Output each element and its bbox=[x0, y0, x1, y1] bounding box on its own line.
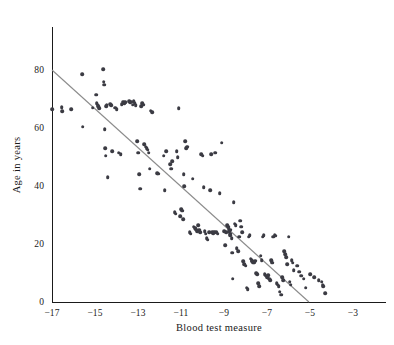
data-point bbox=[262, 234, 266, 238]
data-point bbox=[229, 228, 233, 232]
data-point bbox=[248, 234, 252, 238]
data-point bbox=[308, 273, 312, 277]
data-point bbox=[191, 177, 195, 181]
data-point bbox=[196, 223, 200, 227]
data-point bbox=[101, 68, 105, 72]
data-point bbox=[123, 101, 127, 105]
data-point bbox=[240, 231, 244, 235]
data-point bbox=[81, 125, 85, 129]
data-point bbox=[223, 244, 227, 248]
data-point bbox=[50, 107, 54, 111]
data-point bbox=[289, 283, 293, 287]
data-point bbox=[302, 277, 306, 281]
data-point bbox=[119, 152, 123, 156]
data-point bbox=[61, 109, 65, 113]
data-point bbox=[171, 160, 175, 164]
data-point bbox=[104, 147, 108, 151]
data-point bbox=[297, 270, 301, 274]
data-point bbox=[150, 110, 154, 114]
data-point bbox=[91, 106, 95, 110]
data-point bbox=[148, 167, 152, 171]
data-point bbox=[136, 151, 140, 155]
data-point bbox=[238, 219, 242, 223]
data-point bbox=[231, 277, 235, 281]
data-point bbox=[253, 259, 257, 263]
data-point bbox=[137, 173, 141, 177]
scatter-plot-figure: −17−15−13−11−9−7−5−3020406080 Blood test… bbox=[0, 0, 394, 345]
data-point bbox=[236, 249, 240, 253]
data-point bbox=[102, 83, 106, 87]
data-point bbox=[162, 154, 166, 158]
data-point bbox=[184, 139, 188, 143]
data-point bbox=[279, 293, 283, 297]
data-point bbox=[246, 287, 250, 291]
data-point bbox=[185, 145, 189, 149]
data-point bbox=[138, 187, 142, 191]
data-point bbox=[103, 128, 107, 132]
data-point bbox=[209, 152, 213, 156]
data-point bbox=[175, 149, 179, 153]
data-point bbox=[258, 284, 262, 288]
data-point bbox=[170, 167, 174, 171]
data-point bbox=[271, 261, 275, 265]
data-point bbox=[274, 234, 278, 238]
data-point bbox=[202, 186, 206, 190]
data-point bbox=[201, 154, 205, 158]
data-point bbox=[182, 184, 186, 188]
data-point bbox=[109, 104, 113, 108]
data-points-layer bbox=[0, 0, 394, 345]
data-point bbox=[322, 284, 326, 288]
data-point bbox=[176, 155, 180, 159]
data-point bbox=[281, 278, 285, 282]
data-point bbox=[295, 264, 299, 268]
data-point bbox=[259, 254, 263, 258]
data-point bbox=[291, 261, 295, 265]
data-point bbox=[214, 151, 218, 155]
data-point bbox=[181, 218, 185, 222]
data-point bbox=[157, 172, 161, 176]
data-point bbox=[147, 151, 151, 155]
data-point bbox=[286, 263, 290, 267]
data-point bbox=[174, 212, 178, 216]
data-point bbox=[234, 223, 238, 227]
data-point bbox=[237, 235, 241, 239]
data-point bbox=[285, 255, 289, 259]
data-point bbox=[239, 225, 243, 229]
data-point bbox=[206, 238, 210, 242]
data-point bbox=[230, 251, 234, 255]
y-axis-label: Age in years bbox=[11, 137, 22, 194]
data-point bbox=[220, 141, 224, 145]
data-point bbox=[80, 73, 84, 77]
data-point bbox=[256, 273, 260, 277]
data-point bbox=[182, 173, 186, 177]
data-point bbox=[142, 103, 146, 107]
data-point bbox=[323, 292, 327, 296]
data-point bbox=[216, 232, 220, 236]
data-point bbox=[94, 93, 98, 97]
data-point bbox=[110, 149, 114, 153]
data-point bbox=[277, 284, 281, 288]
data-point bbox=[230, 236, 234, 240]
data-point bbox=[244, 264, 248, 268]
data-point bbox=[177, 106, 181, 110]
data-point bbox=[70, 107, 74, 111]
data-point bbox=[163, 189, 167, 193]
data-point bbox=[60, 105, 64, 109]
data-point bbox=[106, 176, 110, 180]
data-point bbox=[164, 149, 168, 153]
data-point bbox=[135, 139, 139, 143]
data-point bbox=[98, 106, 102, 110]
data-point bbox=[104, 154, 108, 158]
data-point bbox=[232, 200, 236, 204]
x-axis-label: Blood test measure bbox=[176, 322, 262, 333]
data-point bbox=[287, 235, 291, 239]
data-point bbox=[268, 278, 272, 282]
data-point bbox=[260, 258, 264, 262]
data-point bbox=[199, 231, 203, 235]
data-point bbox=[218, 191, 222, 195]
data-point bbox=[115, 107, 119, 111]
data-point bbox=[292, 268, 296, 272]
data-point bbox=[180, 209, 184, 213]
data-point bbox=[208, 189, 212, 193]
data-point bbox=[189, 232, 193, 236]
